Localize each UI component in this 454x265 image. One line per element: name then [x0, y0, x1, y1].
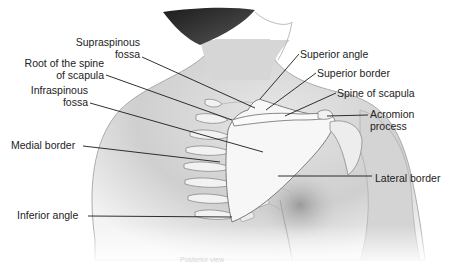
label-line: fossa — [26, 96, 88, 108]
label-superior-angle: Superior angle — [300, 48, 380, 60]
label-superior-border: Superior border — [317, 67, 397, 79]
label-inferior-angle: Inferior angle — [17, 209, 87, 221]
label-root-of-spine: Root of the spineof scapula — [22, 57, 104, 81]
label-line: Medial border — [11, 139, 81, 151]
label-line: Supraspinous — [68, 36, 140, 48]
label-line: Spine of scapula — [337, 87, 427, 99]
label-spine-of-scapula: Spine of scapula — [337, 87, 427, 99]
label-infraspinous-fossa: Infraspinousfossa — [26, 84, 88, 108]
label-line: Infraspinous — [26, 84, 88, 96]
label-line: Superior border — [317, 67, 397, 79]
hair — [163, 8, 255, 45]
label-line: of scapula — [22, 69, 104, 81]
label-acromion-process: Acromionprocess — [370, 108, 430, 132]
label-medial-border: Medial border — [11, 139, 81, 151]
label-line: Acromion — [370, 108, 430, 120]
label-line: process — [370, 120, 430, 132]
label-line: Superior angle — [300, 48, 380, 60]
label-line: Lateral border — [375, 172, 454, 184]
label-line: Root of the spine — [22, 57, 104, 69]
caption: Posterior view — [180, 256, 225, 263]
label-lateral-border: Lateral border — [375, 172, 454, 184]
label-line: Inferior angle — [17, 209, 87, 221]
